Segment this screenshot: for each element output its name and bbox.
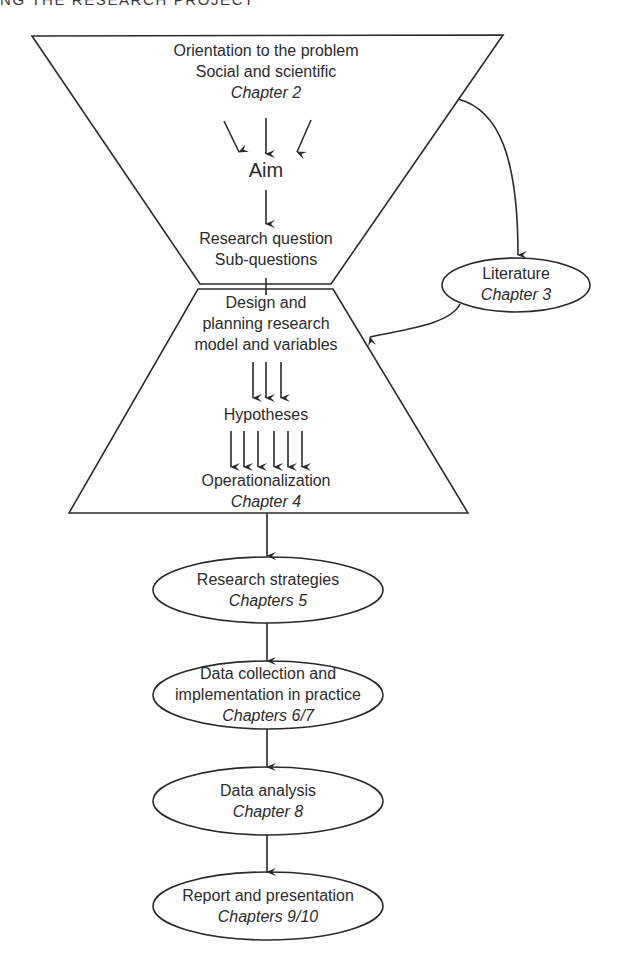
step-title: Report and presentation [158, 885, 378, 906]
operationalization-label: Operationalization Chapter 4 [166, 470, 366, 512]
step-title-line1: Data collection and [158, 663, 378, 684]
step-title-line2: implementation in practice [158, 684, 378, 705]
hypotheses-label: Hypotheses [186, 404, 346, 425]
literature-title: Literature [456, 263, 576, 284]
design-line2: planning research [166, 313, 366, 334]
step-chapter: Chapters 6/7 [158, 705, 378, 726]
step-chapter: Chapter 8 [168, 801, 368, 822]
step-research-strategies: Research strategies Chapters 5 [168, 569, 368, 611]
literature-label: Literature Chapter 3 [456, 263, 576, 305]
from-literature-arrow [370, 304, 460, 337]
step-data-analysis: Data analysis Chapter 8 [168, 780, 368, 822]
literature-chapter: Chapter 3 [456, 284, 576, 305]
orientation-line2: Social and scientific [166, 61, 366, 82]
sub-questions-line: Sub-questions [176, 249, 356, 270]
step-title: Data analysis [168, 780, 368, 801]
design-label: Design and planning research model and v… [166, 292, 366, 355]
step-chapter: Chapters 9/10 [158, 906, 378, 927]
aim-label: Aim [216, 160, 316, 181]
orientation-chapter: Chapter 2 [166, 82, 366, 103]
operationalization-chapter: Chapter 4 [166, 491, 366, 512]
step-title: Research strategies [168, 569, 368, 590]
step-report: Report and presentation Chapters 9/10 [158, 885, 378, 927]
design-line3: model and variables [166, 334, 366, 355]
orientation-label: Orientation to the problem Social and sc… [166, 40, 366, 103]
research-question-label: Research question Sub-questions [176, 228, 356, 270]
research-question-line: Research question [176, 228, 356, 249]
to-literature-arrow [458, 99, 518, 255]
step-chapter: Chapters 5 [168, 590, 368, 611]
operationalization-title: Operationalization [166, 470, 366, 491]
step-data-collection: Data collection and implementation in pr… [158, 663, 378, 726]
orientation-line1: Orientation to the problem [166, 40, 366, 61]
design-line1: Design and [166, 292, 366, 313]
